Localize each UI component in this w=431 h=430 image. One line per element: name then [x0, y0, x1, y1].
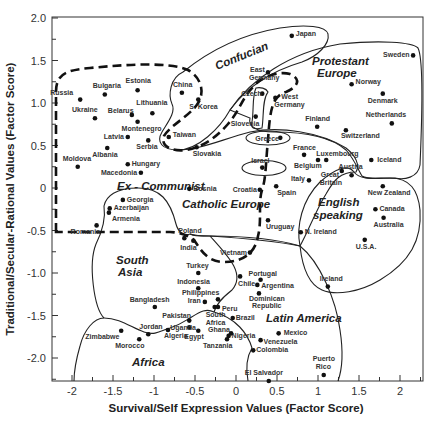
data-point [107, 206, 112, 211]
point-label: Montenegro [122, 125, 162, 133]
data-point [248, 250, 253, 255]
point-label: Dominican [249, 295, 285, 302]
region-label-south: South [116, 254, 149, 266]
data-point [135, 119, 140, 124]
region-label-catholic-europe: Catholic Europe [182, 198, 271, 210]
point-label: Nigeria [232, 332, 256, 340]
data-point [153, 305, 158, 310]
point-label: Tanzania [203, 342, 233, 349]
point-label: West [281, 93, 298, 100]
x-tick-label: -1.5 [104, 385, 123, 397]
data-point [182, 236, 187, 241]
point-label: Spain [277, 189, 296, 197]
data-point [253, 114, 258, 119]
data-point [203, 300, 208, 305]
data-point [349, 82, 354, 87]
x-tick-label: 2 [397, 385, 403, 397]
data-point [380, 91, 385, 96]
point-label: Azerbaijan [114, 204, 149, 212]
point-label: Vietnam [220, 249, 247, 256]
x-tick-label: 1.5 [351, 385, 366, 397]
data-point [150, 111, 155, 116]
point-label: Peru [222, 305, 238, 312]
data-point [194, 145, 199, 150]
data-point [298, 230, 303, 235]
data-point [121, 198, 126, 203]
region-label-speaking: speaking [313, 209, 363, 221]
point-label: Belarus [108, 107, 134, 114]
data-point [187, 187, 192, 192]
point-label: New Zealand [368, 189, 411, 196]
point-label: Norway [356, 78, 381, 86]
data-point [255, 283, 260, 288]
point-label: Uruguay [266, 223, 295, 231]
point-label: Israel [251, 157, 269, 164]
point-label: Germany [249, 74, 279, 82]
point-label: Lithuania [136, 99, 167, 106]
x-tick-label: -0.5 [186, 385, 205, 397]
region-label-asia: Asia [117, 266, 143, 278]
point-label: France [293, 144, 316, 151]
point-label: Mexico [284, 329, 308, 336]
point-label: China [173, 81, 193, 88]
x-tick-label: -1 [149, 385, 159, 397]
point-label: Argentina [261, 282, 294, 290]
point-label: Chile [238, 280, 255, 287]
data-point [94, 223, 99, 228]
y-axis-title: Traditional/Secular-Rational Values (Fac… [4, 62, 16, 335]
data-point [196, 97, 201, 102]
data-point [107, 210, 112, 215]
data-point [78, 97, 83, 102]
y-tick-label: -1.5 [27, 310, 46, 322]
point-label: Georgia [127, 196, 154, 204]
data-point [276, 331, 281, 336]
point-label: Bulgaria [93, 82, 121, 90]
point-label: Taiwan [173, 131, 196, 138]
point-label: Denmark [368, 97, 398, 104]
y-tick-label: -2.0 [27, 352, 46, 364]
point-label: Greece [255, 135, 279, 142]
data-point [267, 379, 272, 384]
data-point [369, 158, 374, 163]
point-label: Macedonia [101, 169, 137, 176]
data-point [266, 218, 271, 223]
point-label: South [206, 311, 226, 318]
point-label: India [180, 244, 196, 251]
data-point [216, 297, 221, 302]
point-label: Croatia [233, 186, 257, 193]
point-label: Belgium [294, 162, 322, 170]
point-label: Moldova [63, 155, 91, 162]
region-label-protestant-europe: Europe [317, 67, 357, 79]
data-point [191, 238, 196, 243]
point-label: Zimbabwe [85, 333, 119, 340]
data-point [75, 164, 80, 169]
data-point [307, 178, 312, 183]
data-point [196, 271, 201, 276]
y-tick-label: 0 [40, 182, 46, 194]
data-point [216, 305, 221, 310]
point-label: Ghana [208, 326, 230, 333]
data-point [187, 318, 192, 323]
data-point [302, 153, 307, 158]
point-label: Russia [50, 89, 73, 96]
point-label: Japan [296, 30, 316, 38]
data-point [230, 316, 235, 321]
data-point [251, 348, 256, 353]
data-point [289, 34, 294, 39]
point-label: Africa [206, 319, 226, 326]
point-label: Puerto [313, 355, 335, 362]
point-label: Albania [92, 151, 117, 158]
data-point [146, 332, 151, 337]
point-label: Hungary [132, 160, 161, 168]
point-label: Ukraine [72, 106, 98, 113]
point-label: Republic [252, 302, 282, 310]
point-label: Australia [374, 221, 404, 228]
point-label: Turkey [186, 262, 209, 270]
point-label: Serbia [136, 143, 158, 150]
data-point [238, 274, 243, 279]
point-label: Canada [379, 205, 404, 212]
y-tick-label: 1.0 [31, 97, 46, 109]
data-point [390, 121, 395, 126]
data-point [373, 207, 378, 212]
data-point [125, 162, 130, 167]
